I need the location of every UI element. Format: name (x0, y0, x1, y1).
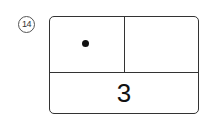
bottom-cell-value: 3 (50, 75, 198, 111)
problem-number: 14 (18, 16, 35, 33)
horizontal-divider (50, 72, 198, 73)
dot-icon (82, 40, 89, 47)
answer-card: 3 (49, 16, 199, 114)
vertical-divider (124, 17, 125, 72)
